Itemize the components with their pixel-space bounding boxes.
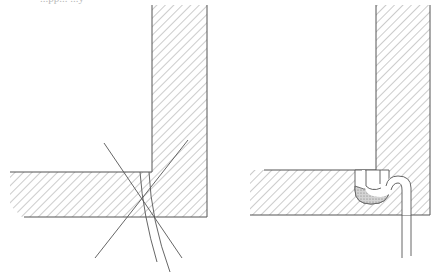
caption-fragment: ...pp... ...y <box>40 0 84 4</box>
left-l-profile <box>10 5 207 217</box>
right-panel <box>250 5 430 258</box>
diagram-svg <box>0 0 432 280</box>
figure-stage: ...pp... ...y <box>0 0 432 280</box>
left-panel <box>10 5 207 272</box>
left-joint-members <box>10 5 207 217</box>
